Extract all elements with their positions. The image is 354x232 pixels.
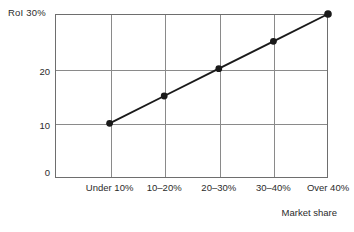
y-tick-label-20: 20 xyxy=(8,66,50,77)
y-tick-label-0: 0 xyxy=(8,167,50,178)
gridline-vertical-3 xyxy=(220,15,221,177)
x-axis-title: Market share xyxy=(282,207,337,218)
gridline-vertical-4 xyxy=(274,15,275,177)
gridline-horizontal-20 xyxy=(56,70,327,71)
y-axis-title: RoI 30% xyxy=(8,7,46,18)
gridline-vertical-1 xyxy=(111,15,112,177)
plot-area xyxy=(55,14,328,178)
gridline-vertical-2 xyxy=(165,15,166,177)
gridline-horizontal-10 xyxy=(56,124,327,125)
y-tick-label-10: 10 xyxy=(8,120,50,131)
x-tick-label-over-40: Over 40% xyxy=(288,182,354,193)
